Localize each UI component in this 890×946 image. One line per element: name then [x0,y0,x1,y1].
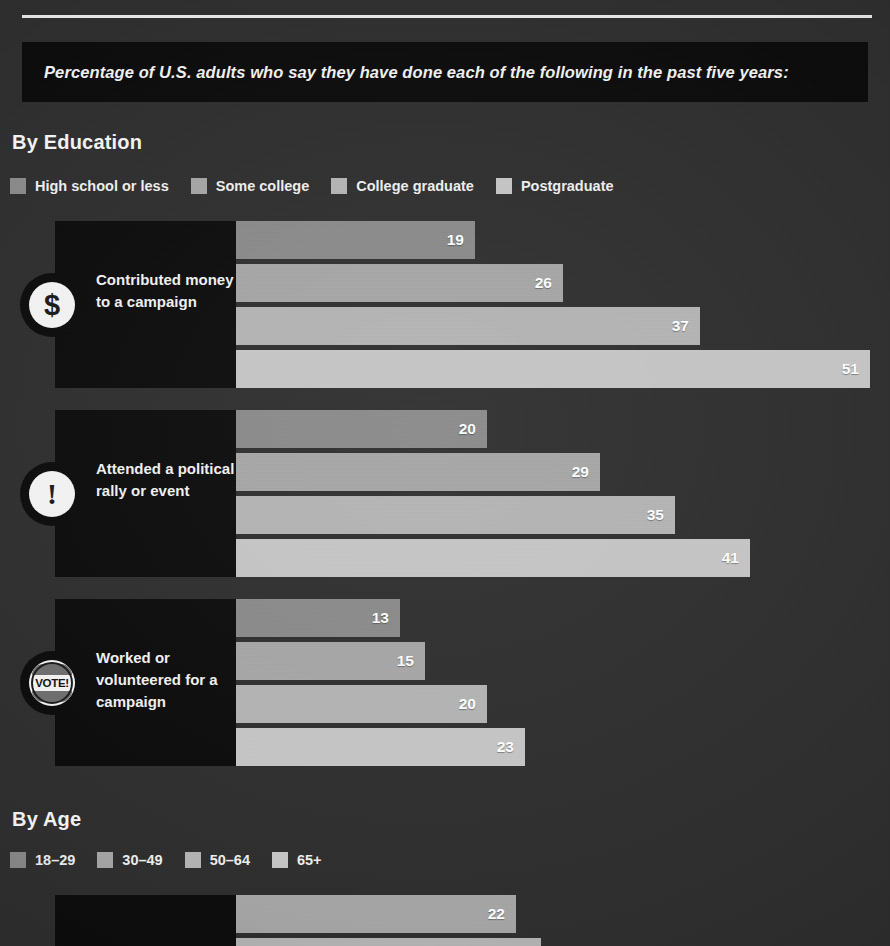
bar-row: 13 [236,599,525,637]
bar-value: 41 [722,550,750,566]
legend-label: College graduate [356,178,474,194]
dollar-glyph: $ [44,291,60,320]
legend-label: 18–29 [35,852,75,868]
bar-row: 19 [236,221,870,259]
bars-container: 13 15 20 23 [236,599,525,771]
section-title-by-education: By Education [12,131,142,154]
bar-row: 23 [236,728,525,766]
section-title-by-age: By Age [12,808,81,831]
intro-banner-text: Percentage of U.S. adults who say they h… [22,63,789,82]
legend-swatch-icon [496,178,512,194]
bar-row: 15 [236,642,525,680]
legend-swatch-icon [10,852,26,868]
bar-value: 15 [397,653,425,669]
icon-disc: ! [29,471,75,517]
group-panel [55,895,236,946]
legend-swatch-icon [97,852,113,868]
bar-value: 13 [372,610,400,626]
exclamation-glyph: ! [47,479,57,509]
legend-item-30-49[interactable]: 30–49 [97,852,162,868]
top-divider-rule [22,15,872,18]
bar-row: 26 [236,264,870,302]
bar-value: 20 [459,696,487,712]
legend-label: Postgraduate [521,178,614,194]
bar-row: 22 [236,895,541,933]
legend-item-65-plus[interactable]: 65+ [272,852,322,868]
legend-item-some-college[interactable]: Some college [191,178,309,194]
bar-value: 51 [842,361,870,377]
legend-label: Some college [216,178,309,194]
bar-some-college[interactable]: 26 [236,264,563,302]
bar-18-29[interactable]: 22 [236,895,516,933]
bar-row: 37 [236,307,870,345]
bar-postgraduate[interactable]: 51 [236,350,870,388]
legend-item-18-29[interactable]: 18–29 [10,852,75,868]
legend-label: 30–49 [122,852,162,868]
infographic-page: Percentage of U.S. adults who say they h… [0,0,890,946]
bar-college-graduate[interactable]: 20 [236,685,487,723]
bar-postgraduate[interactable]: 23 [236,728,525,766]
bar-some-college[interactable]: 15 [236,642,425,680]
legend-label: High school or less [35,178,169,194]
group-label: Worked or volunteered for a campaign [96,647,236,712]
bar-row: 20 [236,685,525,723]
legend-swatch-icon [191,178,207,194]
legend-swatch-icon [10,178,26,194]
legend-by-age: 18–29 30–49 50–64 65+ [10,852,344,868]
intro-banner: Percentage of U.S. adults who say they h… [22,42,868,102]
icon-disc: VOTE! [29,660,75,706]
legend-label: 50–64 [210,852,250,868]
legend-swatch-icon [185,852,201,868]
legend-swatch-icon [272,852,288,868]
group-label: Attended a political rally or event [96,458,236,502]
bar-high-school-or-less[interactable]: 19 [236,221,475,259]
bar-30-49[interactable] [236,938,541,946]
dollar-sign-icon: $ [20,273,84,337]
legend-item-50-64[interactable]: 50–64 [185,852,250,868]
legend-item-postgraduate[interactable]: Postgraduate [496,178,614,194]
bar-high-school-or-less[interactable]: 13 [236,599,400,637]
bar-college-graduate[interactable]: 35 [236,496,675,534]
vote-glyph: VOTE! [34,676,70,690]
bar-row: 41 [236,539,750,577]
bars-container: 19 26 37 51 [236,221,870,393]
vote-badge-icon: VOTE! [20,651,84,715]
bar-value: 37 [672,318,700,334]
bar-value: 23 [497,739,525,755]
bar-some-college[interactable]: 29 [236,453,600,491]
bars-container: 22 [236,895,541,946]
bar-high-school-or-less[interactable]: 20 [236,410,487,448]
legend-by-education: High school or less Some college College… [10,178,636,194]
bar-value: 35 [647,507,675,523]
bars-container: 20 29 35 41 [236,410,750,582]
exclamation-icon: ! [20,462,84,526]
bar-row: 51 [236,350,870,388]
bar-value: 19 [447,232,475,248]
legend-swatch-icon [331,178,347,194]
bar-postgraduate[interactable]: 41 [236,539,750,577]
bar-row: 20 [236,410,750,448]
bar-value: 29 [572,464,600,480]
bar-college-graduate[interactable]: 37 [236,307,700,345]
legend-item-high-school-or-less[interactable]: High school or less [10,178,169,194]
group-label: Contributed money to a campaign [96,269,236,313]
bar-row: 35 [236,496,750,534]
legend-item-college-graduate[interactable]: College graduate [331,178,474,194]
bar-row [236,938,541,946]
bar-row: 29 [236,453,750,491]
legend-label: 65+ [297,852,322,868]
icon-disc: $ [29,282,75,328]
bar-value: 22 [488,906,516,922]
bar-value: 20 [459,421,487,437]
bar-value: 26 [535,275,563,291]
